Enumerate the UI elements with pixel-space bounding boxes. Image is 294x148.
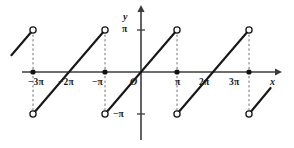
x-tick-label-3pi: 3π <box>229 78 239 88</box>
axis-group <box>22 5 282 140</box>
open-point-3pi-bottom <box>246 111 252 117</box>
filled-point-neg-pi <box>102 69 107 74</box>
segment-partial-left <box>11 30 33 55</box>
filled-point-pi <box>174 69 179 74</box>
x-tick-label-2pi: 2π <box>199 78 209 88</box>
x-axis-label: x <box>270 77 275 87</box>
open-point-pi-bottom <box>174 111 180 117</box>
open-point-neg-pi-bottom <box>102 111 108 117</box>
plot-canvas <box>0 0 294 148</box>
x-tick-label-pi: π <box>175 78 180 88</box>
segment-partial-right <box>249 88 271 114</box>
y-tick-label-pi: π <box>122 25 127 35</box>
filled-point-neg-3pi <box>30 69 35 74</box>
x-tick-label-neg-3pi: −3π <box>28 78 44 88</box>
open-point-neg-pi-top <box>102 27 108 33</box>
x-tick-label-neg-2pi: −2π <box>58 78 74 88</box>
open-point-3pi-top <box>246 27 252 33</box>
y-axis-label: y <box>123 12 127 22</box>
open-point-neg-3pi-top <box>30 27 36 33</box>
open-point-pi-top <box>174 27 180 33</box>
origin-label: O <box>130 77 137 87</box>
filled-point-3pi <box>246 69 251 74</box>
sawtooth-graph-figure: −3π −2π −π π 2π 3π π −π O y x <box>0 0 294 148</box>
x-tick-label-neg-pi: −π <box>92 78 103 88</box>
x-axis-arrowhead <box>275 68 282 75</box>
y-tick-label-neg-pi: −π <box>113 110 124 120</box>
y-axis-arrowhead <box>137 5 144 12</box>
open-point-neg-3pi-bottom <box>30 111 36 117</box>
